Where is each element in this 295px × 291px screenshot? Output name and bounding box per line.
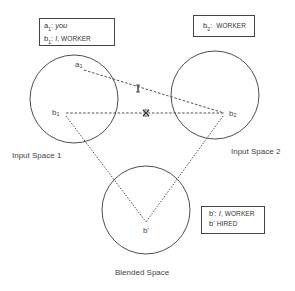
box-value: , WORKER: [57, 35, 91, 42]
box-value: , WORKER: [221, 210, 255, 217]
mapping-line-a1-b2: [84, 70, 224, 113]
box-sep: :: [210, 21, 212, 30]
point-label-b1-sub: 1: [56, 111, 59, 117]
point-label-a1-sub: 1: [79, 63, 82, 69]
blended-space-label: Blended Space: [115, 268, 169, 277]
box-sep: :: [51, 34, 53, 43]
point-label-bprime: b': [143, 226, 149, 235]
box-value: HIRED: [217, 220, 238, 227]
box-value: WORKER: [216, 22, 246, 29]
point-label-b1: b1: [52, 108, 60, 117]
input-space-2-box-row-b2: b2: WORKER: [203, 21, 250, 34]
box-key: b': [209, 219, 215, 228]
input-space-1-box-row-b1: b1: I, WORKER: [44, 34, 110, 47]
input-space-2-box: b2: WORKER: [193, 15, 255, 37]
input-space-1-box-row-a1: a1: you: [44, 21, 110, 34]
mapping-mark-i-icon: [136, 85, 140, 92]
blended-space-box-row-1: b': I, WORKER: [209, 209, 260, 219]
blended-space-box-row-2: b' HIRED: [209, 219, 260, 229]
input-space-1-box: a1: you b1: I, WORKER: [39, 18, 115, 46]
box-sep: :: [51, 21, 53, 30]
point-label-b2: b2: [229, 109, 237, 118]
input-space-1-label: Input Space 1: [12, 151, 61, 160]
point-label-b2-sub: 2: [233, 112, 236, 118]
input-space-2-label: Input Space 2: [231, 147, 280, 156]
blended-space-box: b': I, WORKER b' HIRED: [201, 206, 265, 234]
input-space-2-circle: [171, 51, 259, 139]
projection-line-b1-bprime: [66, 116, 146, 222]
box-value: you: [55, 21, 67, 30]
input-space-1-circle: [30, 55, 118, 143]
point-label-a1: a1: [75, 60, 83, 69]
box-sep: :: [215, 209, 217, 218]
